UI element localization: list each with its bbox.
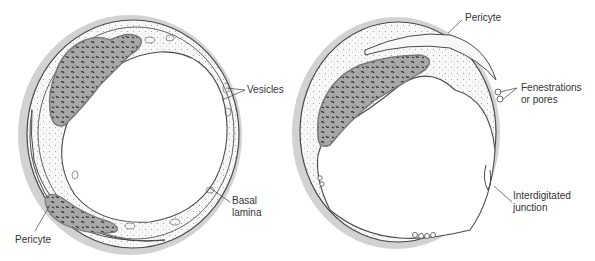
label-basal-lamina-line2: lamina	[232, 207, 261, 219]
label-junction-line2: junction	[513, 202, 547, 214]
label-junction-line1: Interdigitated	[513, 190, 571, 202]
label-basal-lamina-line1: Basal	[232, 195, 257, 207]
label-fenestrations-line1: Fenestrations	[521, 82, 582, 94]
capillary-diagram	[0, 0, 595, 261]
junction-leader	[494, 186, 512, 202]
label-vesicles: Vesicles	[247, 84, 284, 96]
pericyte-leader-right	[448, 20, 462, 33]
continuous-capillary	[18, 15, 245, 255]
label-pericyte-left: Pericyte	[15, 234, 51, 246]
label-fenestrations-line2: or pores	[521, 94, 558, 106]
label-pericyte-right: Pericyte	[465, 12, 501, 24]
fenestrated-capillary	[292, 17, 517, 249]
